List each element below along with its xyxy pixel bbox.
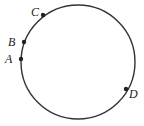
points-group: A B C D xyxy=(4,5,138,101)
point-c xyxy=(41,13,45,17)
point-a xyxy=(19,57,23,61)
point-b xyxy=(22,40,26,44)
label-c: C xyxy=(31,5,40,19)
circle-diagram: A B C D xyxy=(0,0,144,126)
label-d: D xyxy=(128,87,138,101)
label-b: B xyxy=(8,35,16,49)
circle xyxy=(21,5,135,119)
point-d xyxy=(124,87,128,91)
label-a: A xyxy=(4,52,13,66)
